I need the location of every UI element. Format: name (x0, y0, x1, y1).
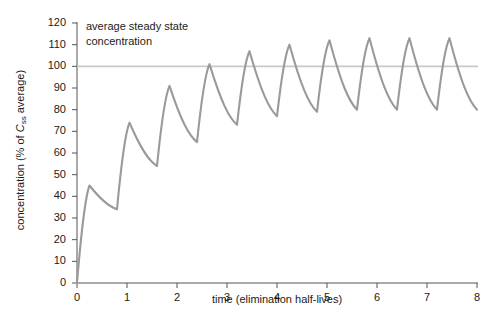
y-tick-label: 70 (40, 124, 66, 136)
x-tick-label: 8 (467, 291, 487, 303)
y-tick-label: 50 (40, 168, 66, 180)
y-tick-label: 10 (40, 254, 66, 266)
y-tick-label: 120 (40, 16, 66, 28)
y-tick-label: 0 (40, 276, 66, 288)
y-tick-label: 30 (40, 211, 66, 223)
y-tick-label: 40 (40, 189, 66, 201)
y-axis-title-prefix: concentration (% of (14, 132, 26, 230)
x-tick-label: 4 (267, 291, 287, 303)
x-tick-label: 3 (217, 291, 237, 303)
y-axis-title-symbol: C (14, 124, 26, 132)
y-tick-label: 100 (40, 59, 66, 71)
concentration-curve (77, 38, 477, 283)
x-axis-ticks (77, 283, 477, 288)
y-axis-ticks (72, 23, 77, 283)
y-tick-label: 60 (40, 146, 66, 158)
y-tick-label: 110 (40, 38, 66, 50)
y-tick-label: 90 (40, 81, 66, 93)
x-tick-label: 1 (117, 291, 137, 303)
x-tick-label: 6 (367, 291, 387, 303)
y-axis-title: concentration (% of Css average) (14, 0, 28, 50)
x-tick-label: 5 (317, 291, 337, 303)
y-tick-label: 20 (40, 233, 66, 245)
y-axis-title-suffix: average) (14, 70, 26, 116)
x-tick-label: 2 (167, 291, 187, 303)
plot-area (0, 0, 500, 320)
y-tick-label: 80 (40, 103, 66, 115)
average-steady-state-annotation: average steady state concentration (86, 19, 188, 49)
x-tick-label: 0 (67, 291, 87, 303)
pharmacokinetics-chart: average steady state concentration conce… (0, 0, 500, 320)
x-tick-label: 7 (417, 291, 437, 303)
y-axis-title-subscript: ss (19, 116, 28, 124)
